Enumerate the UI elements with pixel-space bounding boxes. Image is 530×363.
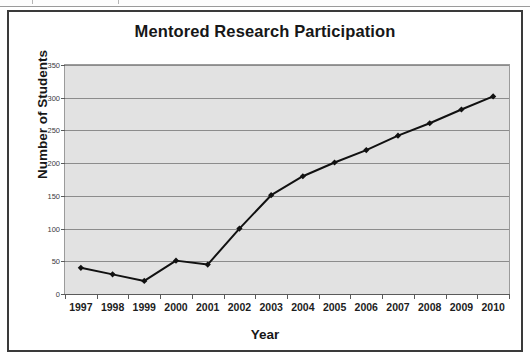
y-axis-tick-label: 150 [47, 192, 60, 201]
x-axis-tick-label: 2010 [481, 301, 504, 313]
x-axis-tick-mark [192, 294, 193, 299]
data-point-marker [427, 120, 433, 126]
x-axis-tick-mark [128, 294, 129, 299]
chart-title: Mentored Research Participation [9, 22, 521, 41]
x-axis-title: Year [9, 327, 521, 342]
x-axis-tick-label: 2000 [164, 301, 187, 313]
x-axis-tick-mark [477, 294, 478, 299]
y-axis-tick-label: 350 [47, 61, 60, 70]
x-axis-tick-label: 2007 [386, 301, 409, 313]
data-point-marker [78, 265, 84, 271]
x-axis-tick-label: 1998 [101, 301, 124, 313]
x-axis-tick-label: 2006 [355, 301, 378, 313]
data-point-marker [458, 106, 464, 112]
x-axis-tick-mark [414, 294, 415, 299]
x-axis-tick-mark [446, 294, 447, 299]
x-axis-tick-mark [65, 294, 66, 299]
x-axis-tick-mark [160, 294, 161, 299]
x-axis-tick-label: 2008 [418, 301, 441, 313]
data-point-marker [363, 147, 369, 153]
data-series-line [65, 65, 509, 294]
x-axis-tick-label: 2002 [228, 301, 251, 313]
x-axis-tick-label: 2009 [450, 301, 473, 313]
data-point-marker [490, 93, 496, 99]
x-axis-tick-label: 1997 [69, 301, 92, 313]
chart-figure-frame: Mentored Research Participation Number o… [7, 10, 523, 352]
x-axis-tick-mark [224, 294, 225, 299]
x-axis-tick-mark [509, 294, 510, 299]
x-axis-tick-label: 2004 [291, 301, 314, 313]
plot-area: 050100150200250300350 199719981999200020… [64, 64, 510, 295]
y-axis-tick-label: 200 [47, 159, 60, 168]
x-axis-tick-mark [382, 294, 383, 299]
x-axis-tick-mark [255, 294, 256, 299]
x-axis-tick-mark [97, 294, 98, 299]
y-axis-tick-label: 50 [52, 257, 60, 266]
x-axis-tick-mark [319, 294, 320, 299]
y-axis-tick-label: 250 [47, 126, 60, 135]
data-point-marker [331, 159, 337, 165]
y-axis-tick-label: 300 [47, 94, 60, 103]
y-axis-tick-label: 0 [56, 290, 60, 299]
data-point-marker [109, 271, 115, 277]
x-axis-tick-mark [287, 294, 288, 299]
x-axis-tick-label: 1999 [133, 301, 156, 313]
scan-artifact-strip [0, 0, 530, 7]
data-point-marker [395, 133, 401, 139]
y-axis-title: Number of Students [35, 20, 50, 210]
x-axis-tick-label: 2003 [259, 301, 282, 313]
x-axis-tick-mark [350, 294, 351, 299]
x-axis-tick-label: 2001 [196, 301, 219, 313]
x-axis-tick-label: 2005 [323, 301, 346, 313]
y-axis-tick-label: 100 [47, 225, 60, 234]
